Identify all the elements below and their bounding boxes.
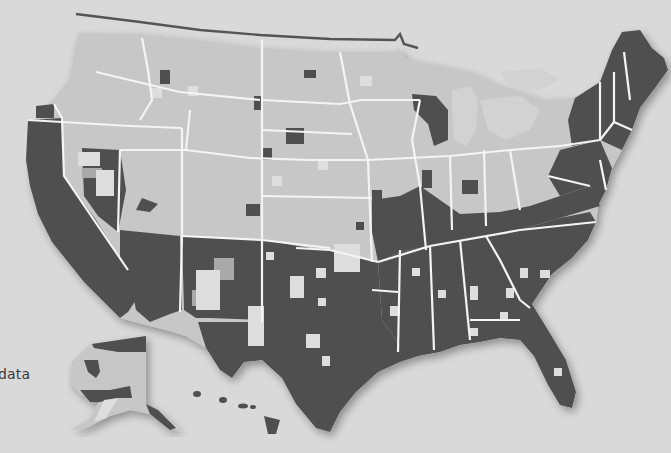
county-dark: [246, 204, 260, 216]
region-new-england: [568, 30, 668, 150]
county-dark: [380, 214, 388, 222]
county-dark: [304, 70, 316, 78]
county-dark: [254, 96, 262, 110]
county-dark: [276, 248, 284, 256]
county-dark: [372, 190, 382, 200]
county-dark: [160, 70, 170, 84]
hawaii-inset: [193, 391, 280, 434]
alaska-inset: [70, 336, 182, 432]
legend-label-fragment: data: [0, 366, 30, 382]
county-dark: [422, 170, 432, 188]
us-choropleth-map: [0, 0, 671, 453]
region-oregon-nw: [36, 104, 54, 118]
county-dark: [462, 180, 478, 194]
county-dark: [356, 222, 364, 230]
